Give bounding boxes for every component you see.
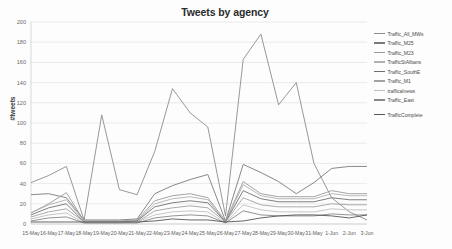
chart-container: Tweets by agency #tweets 020406080100120… [0, 0, 452, 249]
legend-item[interactable]: TrafficStAlbans [374, 57, 452, 66]
legend-label: Traffic_East [388, 97, 414, 103]
chart-legend: Traffic_All_MWsTraffic_M25Traffic_M23Tra… [374, 29, 452, 119]
legend-color-swatch [374, 114, 385, 115]
legend-color-swatch [374, 71, 385, 72]
legend-label: TrafficComplete [388, 112, 423, 118]
legend-label: Traffic_M23 [388, 50, 414, 56]
legend-color-swatch [374, 52, 385, 53]
legend-color-swatch [374, 80, 385, 81]
legend-color-swatch [374, 33, 385, 34]
legend-label: TrafficStAlbans [388, 59, 422, 65]
legend-label: Traffic_M1 [388, 78, 411, 84]
legend-label: Traffic_M25 [388, 40, 414, 46]
legend-item[interactable]: Traffic_M25 [374, 38, 452, 47]
legend-item[interactable]: Traffic_M23 [374, 48, 452, 57]
legend-item[interactable]: Traffic_M1 [374, 76, 452, 85]
legend-item[interactable]: trafficalnews [374, 86, 452, 95]
legend-item[interactable]: Traffic_SouthE [374, 67, 452, 76]
legend-color-swatch [374, 61, 385, 62]
legend-label: Traffic_All_MWs [388, 31, 424, 37]
legend-label: trafficalnews [388, 88, 416, 94]
legend-color-swatch [374, 42, 385, 43]
legend-label: Traffic_SouthE [388, 69, 421, 75]
legend-color-swatch [374, 90, 385, 91]
legend-item[interactable]: TrafficComplete [374, 110, 452, 119]
legend-item[interactable]: Traffic_All_MWs [374, 29, 452, 38]
legend-item[interactable]: Traffic_East [374, 95, 452, 104]
legend-color-swatch [374, 99, 385, 100]
series-line [31, 34, 367, 220]
